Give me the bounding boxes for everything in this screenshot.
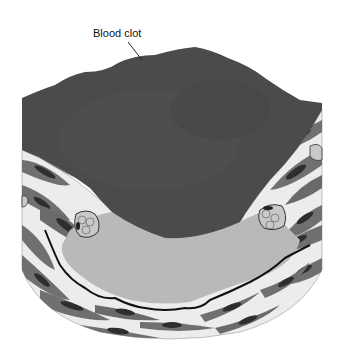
foam-cell-right (259, 205, 286, 230)
artery-clot-illustration: Blood clot (0, 0, 340, 349)
illustration-svg (0, 0, 340, 349)
foam-cell-top-right (310, 144, 322, 160)
blood-clot-label: Blood clot (93, 27, 141, 39)
foam-cell-left (75, 211, 99, 237)
